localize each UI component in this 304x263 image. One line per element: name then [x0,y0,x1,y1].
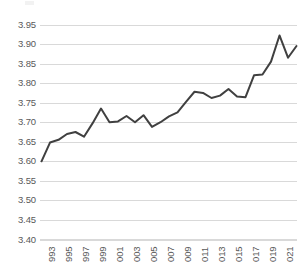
line-chart: 3.403.453.503.553.603.653.703.753.803.85… [0,0,304,263]
x-tick-label: 993 [46,246,57,262]
x-tick-label: 995 [63,246,74,262]
data-line-plot [0,0,304,263]
x-tick-label: 009 [182,246,193,262]
x-axis-tick-labels: 9939959979990010030050070090110130150170… [0,240,304,263]
x-tick-label: 015 [233,246,244,262]
x-tick-label: 003 [131,246,142,262]
x-tick-label: 021 [284,246,295,262]
x-tick-label: 005 [148,246,159,262]
x-tick-label: 999 [97,246,108,262]
x-tick-label: 001 [114,246,125,262]
data-series-line [42,35,297,161]
x-tick-label: 007 [165,246,176,262]
x-tick-label: 013 [216,246,227,262]
x-tick-label: 017 [250,246,261,262]
x-tick-label: 997 [80,246,91,262]
x-tick-label: 011 [199,247,210,262]
x-tick-label: 019 [267,246,278,262]
